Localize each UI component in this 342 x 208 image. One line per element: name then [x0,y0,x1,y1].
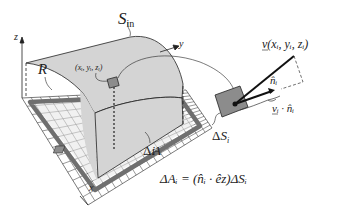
normal-label: n̂ᵢ [270,74,278,86]
R-leader [45,77,52,90]
normal-arrowhead [268,88,275,94]
area-equation: ΔAᵢ = (n̂ᵢ · êz)ΔSᵢ [159,171,247,186]
velocity-vector [235,56,294,104]
delta-S-label: ΔSi [212,128,229,145]
delta-A-text: A [152,143,161,158]
point-label: (xᵢ, yᵢ, zᵢ) [75,63,103,72]
projection-dashes [281,56,303,89]
z-axis-arrow [20,37,24,43]
dot-product-label: vᵢ · n̂ᵢ [272,102,294,114]
axis-y-label: y [178,38,184,49]
axis-z-label: z [13,31,18,42]
delta-S-leader [212,113,220,125]
velocity-label: v(xᵢ, yᵢ, zᵢ) [262,37,308,51]
axis-x-label: x [88,182,94,193]
diagram-canvas: z y x Sin R (xᵢ, yᵢ, zᵢ) Δi A ΔSi v(xᵢ, … [0,0,342,208]
surface-label: Sin [118,9,134,29]
region-label: R [37,61,47,77]
